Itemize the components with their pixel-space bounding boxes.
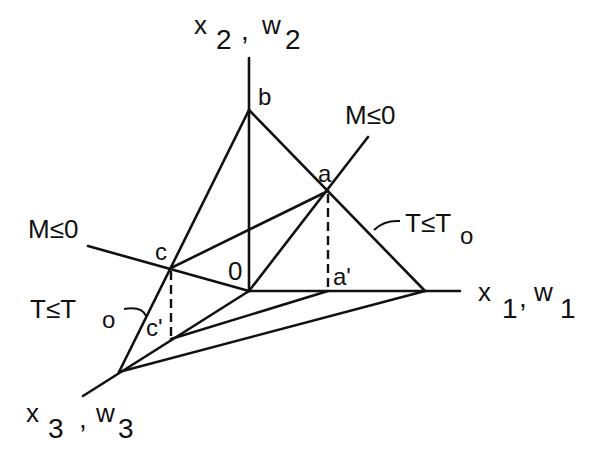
x2-w-label: w xyxy=(261,10,281,40)
x1-axis-sub: 1 xyxy=(502,293,518,324)
edge-x3-x1 xyxy=(119,291,425,372)
t-left-sub: o xyxy=(102,306,115,333)
point-cprime-label: c' xyxy=(146,314,163,341)
x1-w-sub: 1 xyxy=(560,293,576,324)
x3-w-sub: 3 xyxy=(118,413,134,444)
x3-comma: , xyxy=(79,403,87,434)
m-upper-label: M≤0 xyxy=(345,100,395,130)
t-right-sub: o xyxy=(460,222,473,249)
x3-axis-sub: 3 xyxy=(48,413,64,444)
t-left-label: T≤T xyxy=(30,294,76,324)
x2-axis-label: x xyxy=(194,10,207,40)
edge-cprime-aprime xyxy=(171,291,328,339)
x2-w-sub: 2 xyxy=(285,24,301,55)
m-left-label: M≤0 xyxy=(28,214,78,244)
point-aprime-label: a' xyxy=(333,263,351,290)
x1-comma: , xyxy=(519,282,527,313)
t-right-leader xyxy=(374,221,400,230)
m-left-line xyxy=(88,246,249,291)
x2-comma: , xyxy=(241,15,249,46)
x3-axis-label: x xyxy=(26,398,39,428)
origin-label: 0 xyxy=(228,256,242,286)
point-c-label: c xyxy=(155,238,167,265)
simplex-diagram: x 2 , w 2 x 1 , w 1 x 3 , w 3 b a c 0 a'… xyxy=(0,0,593,453)
t-right-label: T≤T xyxy=(405,208,451,238)
x1-axis-label: x xyxy=(478,277,491,307)
point-a-label: a xyxy=(318,160,332,187)
t-left-leader xyxy=(124,308,146,316)
x1-w-label: w xyxy=(533,277,553,307)
x2-axis-sub: 2 xyxy=(216,24,232,55)
point-b-label: b xyxy=(258,83,271,110)
x3-w-label: w xyxy=(95,398,115,428)
